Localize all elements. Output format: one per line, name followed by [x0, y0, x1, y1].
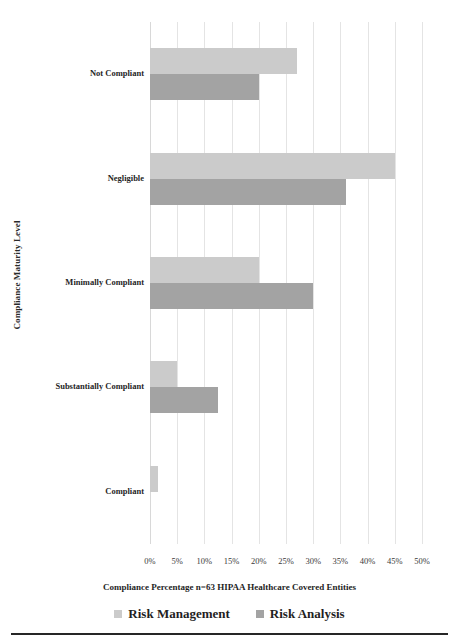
category-row: Compliant [150, 440, 422, 544]
x-tick-label: 10% [197, 556, 213, 566]
category-label: Substantially Compliant [0, 381, 144, 391]
x-axis-title: Compliance Percentage n=63 HIPAA Healthc… [0, 582, 459, 592]
legend-label: Risk Analysis [270, 606, 345, 622]
bar-risk-management[interactable] [150, 466, 158, 492]
bar-risk-management[interactable] [150, 48, 297, 74]
legend-item[interactable]: Risk Analysis [256, 606, 345, 622]
legend-swatch-icon [114, 610, 122, 618]
category-label: Minimally Compliant [0, 277, 144, 287]
x-tick-label: 35% [333, 556, 349, 566]
bar-risk-management[interactable] [150, 361, 177, 387]
x-tick-label: 5% [172, 556, 183, 566]
category-row: Substantially Compliant [150, 335, 422, 439]
bar-risk-analysis[interactable] [150, 179, 346, 205]
y-axis-title: Compliance Maturity Level [12, 195, 22, 355]
bar-risk-management[interactable] [150, 153, 395, 179]
legend-label: Risk Management [128, 606, 229, 622]
bar-chart: Compliance Maturity Level Not CompliantN… [0, 0, 459, 642]
bottom-divider [11, 633, 448, 635]
category-row: Negligible [150, 126, 422, 230]
category-row: Not Compliant [150, 22, 422, 126]
x-tick-label: 30% [305, 556, 321, 566]
category-label: Not Compliant [0, 68, 144, 78]
x-tick-label: 50% [414, 556, 430, 566]
x-tick-label: 0% [144, 556, 155, 566]
x-tick-label: 25% [278, 556, 294, 566]
bar-risk-analysis[interactable] [150, 74, 259, 100]
bar-risk-analysis[interactable] [150, 283, 313, 309]
x-tick-label: 15% [224, 556, 240, 566]
plot-area: Not CompliantNegligibleMinimally Complia… [150, 22, 422, 544]
category-row: Minimally Compliant [150, 231, 422, 335]
legend-swatch-icon [256, 610, 264, 618]
x-axis-tick-labels: 0%5%10%15%20%25%30%35%40%45%50% [150, 556, 422, 570]
chart-legend: Risk ManagementRisk Analysis [0, 606, 459, 622]
category-label: Compliant [0, 486, 144, 496]
bar-risk-management[interactable] [150, 257, 259, 283]
x-tick-label: 45% [387, 556, 403, 566]
x-tick-label: 40% [360, 556, 376, 566]
x-tick-label: 20% [251, 556, 267, 566]
bar-risk-analysis[interactable] [150, 387, 218, 413]
legend-item[interactable]: Risk Management [114, 606, 229, 622]
category-label: Negligible [0, 173, 144, 183]
gridline [422, 22, 423, 544]
